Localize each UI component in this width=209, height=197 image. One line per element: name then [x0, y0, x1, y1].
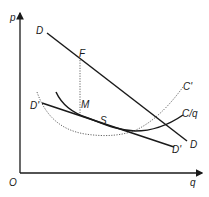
- demand-label-end: D: [190, 139, 197, 150]
- origin-label: O: [9, 177, 17, 188]
- average-cost-curve: [56, 92, 183, 131]
- y-axis-label: p: [9, 12, 16, 23]
- diagram-canvas: p q O D D D' D' C/q C' F M S: [0, 0, 209, 197]
- demand-prime-label-start: D': [30, 100, 40, 111]
- x-axis-label: q: [190, 177, 196, 188]
- marginal-cost-label: C': [183, 81, 193, 92]
- point-m-label: M: [81, 99, 90, 110]
- demand-label-start: D: [36, 25, 43, 36]
- point-s-label: S: [100, 115, 107, 126]
- demand-prime-label-end: D': [172, 144, 182, 155]
- average-cost-label: C/q: [182, 108, 198, 119]
- economics-diagram: p q O D D D' D' C/q C' F M S: [0, 0, 209, 197]
- point-f-label: F: [79, 48, 86, 59]
- marginal-cost-curve: [37, 87, 183, 136]
